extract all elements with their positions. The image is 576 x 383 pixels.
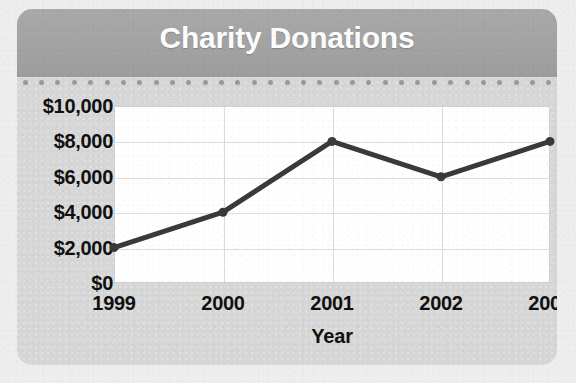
separator-dot — [481, 80, 486, 85]
data-point-marker — [546, 137, 555, 146]
y-axis-tick-label: $2,000 — [17, 238, 113, 258]
separator-dot — [530, 80, 535, 85]
page-root: Charity Donations $0$2,000$4,000$6,000$8… — [0, 0, 576, 383]
data-point-marker — [437, 172, 446, 181]
separator-dot — [317, 80, 322, 85]
x-axis-tick-label: 2002 — [396, 293, 486, 313]
separator-dot — [186, 80, 191, 85]
series-line — [114, 141, 550, 247]
separator-dot — [252, 80, 257, 85]
separator-dot — [285, 80, 290, 85]
y-axis-tick-label: $6,000 — [17, 167, 113, 187]
x-axis-tick-label: 2001 — [287, 293, 377, 313]
separator-dot — [235, 80, 240, 85]
separator-dot — [219, 80, 224, 85]
separator-dot — [546, 80, 551, 85]
plot-wrapper — [114, 106, 550, 283]
separator-dot — [415, 80, 420, 85]
x-axis-tick-label: 2000 — [178, 293, 268, 313]
separator-dot — [366, 80, 371, 85]
separator-dot — [301, 80, 306, 85]
data-point-marker — [328, 137, 337, 146]
x-axis-tick-label: 1999 — [69, 293, 159, 313]
chart-card: Charity Donations $0$2,000$4,000$6,000$8… — [17, 9, 557, 365]
separator-dot — [137, 80, 142, 85]
separator-dot — [121, 80, 126, 85]
separator-dot — [448, 80, 453, 85]
y-axis-tick-label: $10,000 — [17, 96, 113, 116]
data-point-marker — [219, 208, 228, 217]
x-axis-title: Year — [114, 325, 550, 348]
y-axis-tick-label: $0 — [17, 273, 113, 293]
separator-dot — [154, 80, 159, 85]
separator-dot — [465, 80, 470, 85]
separator-dot — [350, 80, 355, 85]
separator-dot — [514, 80, 519, 85]
y-axis-tick-label: $8,000 — [17, 131, 113, 151]
separator-dot — [268, 80, 273, 85]
separator-dot — [497, 80, 502, 85]
line-series — [114, 106, 550, 283]
data-point-marker — [110, 243, 119, 252]
separator-dot — [399, 80, 404, 85]
separator-dot — [334, 80, 339, 85]
separator-dot — [383, 80, 388, 85]
separator-dot — [432, 80, 437, 85]
separator-dot — [170, 80, 175, 85]
separator-dot — [203, 80, 208, 85]
y-axis-tick-label: $4,000 — [17, 202, 113, 222]
x-axis-tick-label: 2003 — [505, 293, 557, 313]
